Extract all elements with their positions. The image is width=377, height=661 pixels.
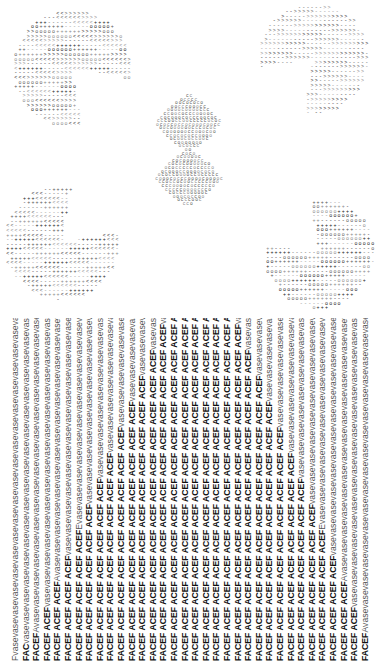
svg-text:o: o — [333, 301, 336, 307]
svg-text:-: - — [311, 55, 314, 61]
svg-text:+: + — [283, 292, 286, 298]
vase-text: vasevasevasevasevasevasevasevasevasevase… — [296, 318, 306, 478]
svg-text:>: > — [302, 55, 305, 61]
text-column: FACEF ACEFvasevasevasevasevasevasevaseva… — [42, 318, 52, 661]
svg-text:c: c — [197, 143, 200, 148]
svg-text:<: < — [77, 121, 80, 127]
svg-text:o: o — [275, 278, 278, 284]
svg-text:+: + — [312, 218, 315, 224]
svg-text:-: - — [371, 259, 374, 265]
svg-text:c: c — [169, 190, 172, 195]
face-text: FACEF ACEF ACEF ACEF ACEF ACEF ACEF ACEF… — [127, 401, 137, 661]
face-text: FACEF ACEF ACEF ACEF ACEF ACEF ACEF ACEF… — [116, 427, 126, 661]
face-text: FACEF — [360, 633, 370, 661]
svg-text:-: - — [348, 92, 351, 98]
face-text: FACEF ACEF ACEF ACEF ACEF ACEF ACEF ACEF — [286, 453, 296, 661]
text-column: FACEF ACEF ACEF ACEF ACEFEvasevasevaseva… — [317, 318, 327, 661]
svg-text:o: o — [65, 121, 68, 127]
svg-text:+: + — [65, 210, 68, 216]
svg-text:c: c — [193, 143, 196, 148]
svg-text:-: - — [98, 70, 101, 76]
face-text: FACEF ACEF ACEF — [339, 581, 349, 661]
text-column: FACEF ACEF ACEF ACEFvasevasevasevasevase… — [328, 318, 338, 661]
text-column: FACEF ACEF ACEF ACEF ACEFEvasevasevaseva… — [74, 318, 84, 661]
svg-text:-: - — [260, 64, 263, 70]
vase-text: vasevasevasevasevasevasevasevasevasevase… — [63, 318, 73, 555]
svg-text:o: o — [354, 287, 357, 293]
svg-text:o: o — [216, 179, 219, 184]
svg-text:o: o — [23, 98, 26, 104]
svg-text:-: - — [290, 60, 293, 66]
rotated-text-columns: Fvasevasevasevasevasevasevasevasevasevas… — [0, 318, 377, 661]
svg-text:-: - — [365, 64, 368, 70]
svg-text:-: - — [18, 89, 21, 95]
svg-text:c: c — [183, 201, 186, 206]
text-column: FACEF ACEF ACEF ACEF ACEF ACEF ACEF ACEF… — [148, 318, 158, 661]
pacman-top-right: ------>>-->>>>>------>----->>>>>>>>>>->>… — [260, 5, 368, 117]
svg-text:<: < — [115, 70, 118, 76]
text-column: FACEF ACEF ACEF ACEF ACEF ACEFvasevaseva… — [84, 318, 94, 661]
svg-text:-: - — [107, 269, 110, 275]
face-text: FACEF ACEF ACEF ACEF ACEF ACEF ACEF — [95, 478, 105, 661]
svg-text:-: - — [306, 110, 309, 116]
svg-text:-: - — [27, 283, 30, 289]
svg-text:-: - — [39, 112, 42, 118]
svg-text:c: c — [166, 133, 169, 138]
svg-text:<: < — [14, 75, 17, 81]
vase-text: vasevasevasevasevasevasevasevasevasevase… — [243, 318, 253, 350]
svg-text:o: o — [199, 140, 202, 145]
pacman-top-left: <<>>>>>>---<<<<<<>>>>+++------<<<<<++++o… — [14, 11, 130, 127]
text-column: FACEF ACEF ACEFAvasevasevasevasevasevase… — [52, 318, 62, 661]
svg-text:+: + — [317, 305, 320, 310]
face-text: FACEF ACEF ACEF ACEF ACEF — [74, 530, 84, 661]
face-text: FACEF ACEF ACEF ACEF ACEF ACEF ACEF ACEF… — [190, 318, 200, 661]
svg-text:+: + — [14, 84, 17, 90]
vase-text: Evasevasevasevasevasevasevasevasevasevas… — [317, 318, 327, 530]
face-text: FACEF ACEF ACEF ACEF — [63, 555, 73, 661]
svg-text:<: < — [6, 251, 9, 257]
text-column: FACEFAvasevasevasevasevasevasevasevaseva… — [31, 318, 41, 661]
illusion-svg: <<>>>>>>---<<<<<<>>>>+++------<<<<<++++o… — [0, 0, 377, 310]
svg-text:<: < — [44, 116, 47, 122]
svg-text:o: o — [195, 197, 198, 202]
vase-text: vasevasevasevasevasevasevasevasevasevase… — [127, 318, 137, 401]
svg-text:>: > — [27, 103, 30, 109]
face-text: FACEF ACEF ACEF ACEF ACEF ACEF ACEF ACEF… — [148, 350, 158, 661]
face-text: FACEF ACEF ACEF ACEF ACEF ACEF ACEF ACEF… — [233, 324, 243, 661]
svg-text:+: + — [317, 241, 320, 247]
svg-text:<: < — [48, 116, 51, 122]
face-text: FACEF ACEF ACEF ACEF ACEF ACEF — [84, 504, 94, 661]
vase-text: vasevasevasevasevasevasevasevasevasevase… — [42, 318, 52, 607]
svg-text:-: - — [277, 60, 280, 66]
text-column: FACEF ACEF ACEF ACEF ACEF ACEF ACEF ACEF… — [158, 318, 168, 661]
svg-text:>: > — [298, 55, 301, 61]
svg-text:o: o — [202, 136, 205, 141]
text-column: FACEF ACEF ACEF ACEF ACEF ACEF ACEF ACEF… — [275, 318, 285, 661]
svg-text:o: o — [52, 121, 55, 127]
svg-text:>: > — [332, 106, 335, 112]
svg-text:+: + — [270, 273, 273, 279]
svg-text:-: - — [304, 301, 307, 307]
svg-text:+: + — [321, 305, 324, 310]
svg-text:o: o — [177, 197, 180, 202]
svg-text:-: - — [15, 274, 18, 280]
svg-text:>: > — [344, 97, 347, 103]
text-column: FACEF ACEF ACEFAvasevasevasevasevasevase… — [339, 318, 349, 661]
svg-text:o: o — [291, 296, 294, 302]
svg-text:>: > — [327, 106, 330, 112]
vase-text: Avasevasevasevasevasevasevasevasevasevas… — [52, 318, 62, 581]
svg-text:c: c — [217, 122, 220, 127]
svg-text:+: + — [94, 66, 97, 72]
vase-text: Evasevasevasevasevasevasevasevasevasevas… — [74, 318, 84, 530]
vase-text: vasevasevasevasevasevasevasevasevasevase… — [349, 318, 359, 607]
svg-text:-: - — [342, 296, 345, 302]
svg-text:o: o — [60, 121, 63, 127]
face-text: FACEF ACEF ACEF ACEF ACEF ACEF ACEF — [296, 478, 306, 661]
svg-text:>: > — [306, 55, 309, 61]
svg-text:+: + — [52, 292, 55, 298]
face-text: FACEF — [31, 633, 41, 661]
svg-text:-: - — [281, 60, 284, 66]
face-text: FACEF ACEF ACEF ACEF ACEF ACEF — [307, 504, 317, 661]
text-column: FACEF ACEFvasevasevasevasevasevasevaseva… — [349, 318, 359, 661]
svg-text:<: < — [36, 288, 39, 294]
